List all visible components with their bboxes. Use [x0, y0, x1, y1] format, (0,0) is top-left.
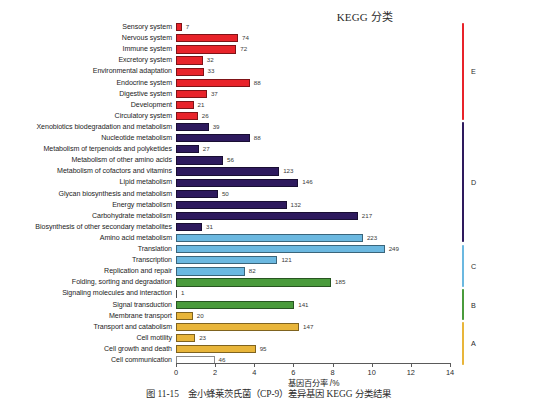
- bar-value-label: 32: [207, 55, 214, 65]
- chart-row: Lipid metabolism146: [0, 177, 470, 188]
- bar-container: [176, 134, 250, 142]
- bar-container: [176, 101, 194, 109]
- bar-container: [176, 201, 287, 209]
- chart-row: Energy metabolism132: [0, 200, 470, 211]
- bar[interactable]: [176, 112, 198, 120]
- bar[interactable]: [176, 23, 182, 31]
- category-label: Circulatory system: [115, 111, 172, 122]
- bar[interactable]: [176, 34, 238, 42]
- bar[interactable]: [176, 156, 223, 164]
- bar-value-label: 223: [367, 233, 377, 243]
- bar[interactable]: [176, 234, 363, 242]
- kegg-classification-figure: KEGG 分类 Sensory system7Nervous system74I…: [0, 0, 537, 399]
- chart-row: Cell growth and death95: [0, 344, 470, 355]
- bar[interactable]: [176, 323, 299, 331]
- group-marker-e: E: [462, 23, 502, 121]
- bar-value-label: 147: [303, 322, 313, 332]
- bar[interactable]: [176, 212, 358, 220]
- x-tick: [254, 363, 255, 367]
- group-label: D: [471, 178, 476, 187]
- bar[interactable]: [176, 167, 279, 175]
- chart-row: Nucleotide metabolism88: [0, 133, 470, 144]
- bar[interactable]: [176, 267, 245, 275]
- category-label: Xenobiotics biodegradation and metabolis…: [36, 122, 172, 133]
- group-color-bar: [462, 122, 464, 242]
- group-marker-b: B: [462, 289, 502, 320]
- bar-container: [176, 212, 358, 220]
- bar[interactable]: [176, 79, 250, 87]
- bar[interactable]: [176, 256, 277, 264]
- figure-caption: 图 11-15 金小蜂莱茨氏菌（CP-9）差异基因 KEGG 分类结果: [0, 386, 537, 399]
- bar[interactable]: [176, 56, 203, 64]
- chart-row: Nervous system74: [0, 33, 470, 44]
- bar[interactable]: [176, 179, 298, 187]
- chart-row: Immune system72: [0, 44, 470, 55]
- chart-row: Signaling molecules and interaction1: [0, 288, 470, 299]
- bar-container: [176, 245, 385, 253]
- chart-row: Endocrine system88: [0, 78, 470, 89]
- bar-value-label: 249: [389, 244, 399, 254]
- bar[interactable]: [176, 334, 195, 342]
- bar-value-label: 217: [362, 211, 372, 221]
- category-label: Metabolism of cofactors and vitamins: [57, 166, 172, 177]
- bar-value-label: 141: [298, 300, 308, 310]
- bar-value-label: 82: [249, 266, 256, 276]
- bar[interactable]: [176, 101, 194, 109]
- bar-value-label: 56: [227, 155, 234, 165]
- bar-container: [176, 267, 245, 275]
- bar[interactable]: [176, 134, 250, 142]
- chart-row: Environmental adaptation33: [0, 66, 470, 77]
- bar-container: [176, 301, 294, 309]
- bar-value-label: 39: [213, 122, 220, 132]
- bar[interactable]: [176, 190, 218, 198]
- bar-container: [176, 223, 202, 231]
- category-label: Excretory system: [118, 55, 172, 66]
- bar[interactable]: [176, 312, 193, 320]
- chart-row: Cell communication46: [0, 355, 470, 366]
- group-color-bar: [462, 245, 464, 287]
- bar-container: [176, 123, 209, 131]
- chart-row: Development21: [0, 100, 470, 111]
- bar[interactable]: [176, 301, 294, 309]
- bar-container: [176, 256, 277, 264]
- category-label: Cell growth and death: [104, 344, 172, 355]
- chart-row: Metabolism of terpenoids and polyketides…: [0, 144, 470, 155]
- chart-row: Signal transduction141: [0, 300, 470, 311]
- bar-container: [176, 345, 256, 353]
- category-label: Translation: [138, 244, 172, 255]
- bar-container: [176, 323, 299, 331]
- group-label: B: [471, 300, 476, 309]
- chart-row: Metabolism of cofactors and vitamins123: [0, 166, 470, 177]
- bar[interactable]: [176, 45, 236, 53]
- chart-row: Metabolism of other amino acids56: [0, 155, 470, 166]
- bar[interactable]: [176, 278, 331, 286]
- chart-row: Digestive system37: [0, 89, 470, 100]
- bar-container: [176, 312, 193, 320]
- bar[interactable]: [176, 345, 256, 353]
- bar-container: [176, 68, 204, 76]
- category-label: Signal transduction: [113, 300, 172, 311]
- category-label: Development: [131, 100, 172, 111]
- category-label: Endocrine system: [116, 78, 172, 89]
- bar[interactable]: [176, 290, 177, 298]
- category-label: Transport and catabolism: [93, 322, 172, 333]
- category-label: Energy metabolism: [112, 200, 172, 211]
- bar[interactable]: [176, 123, 209, 131]
- bar[interactable]: [176, 145, 199, 153]
- bar-value-label: 123: [283, 166, 293, 176]
- bar[interactable]: [176, 245, 385, 253]
- bar-container: [176, 278, 331, 286]
- group-marker-a: A: [462, 322, 502, 364]
- chart-row: Sensory system7: [0, 22, 470, 33]
- bar-value-label: 27: [203, 144, 210, 154]
- bar[interactable]: [176, 68, 204, 76]
- bar[interactable]: [176, 223, 202, 231]
- chart-row: Cell motility23: [0, 333, 470, 344]
- bar[interactable]: [176, 201, 287, 209]
- chart-row: Circulatory system26: [0, 111, 470, 122]
- bar-container: [176, 145, 199, 153]
- bar-container: [176, 45, 236, 53]
- bar[interactable]: [176, 90, 207, 98]
- bar-container: [176, 167, 279, 175]
- chart-row: Carbohydrate metabolism217: [0, 211, 470, 222]
